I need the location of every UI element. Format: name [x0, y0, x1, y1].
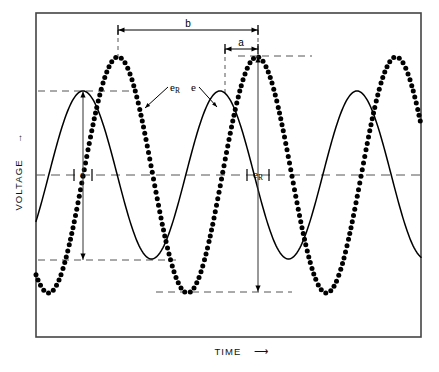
wave-dot	[94, 105, 99, 110]
wave-dot	[230, 119, 235, 124]
wave-dot	[409, 83, 414, 88]
wave-dot	[414, 101, 419, 106]
wave-dot	[222, 163, 227, 168]
wave-dot	[367, 128, 372, 133]
wave-dot	[365, 141, 370, 146]
wave-dot	[332, 284, 337, 289]
wave-dot	[336, 273, 341, 278]
wave-dot	[164, 239, 169, 244]
wave-dot	[387, 59, 392, 64]
wave-dot	[38, 283, 43, 288]
wave-dot	[323, 290, 328, 295]
wave-dot	[302, 237, 307, 242]
wave-dot	[236, 94, 241, 99]
wave-dot	[144, 137, 149, 142]
wave-dot	[286, 154, 291, 159]
wave-dot	[401, 60, 406, 65]
wave-dot	[109, 59, 114, 64]
dimension-label-a: a	[238, 37, 244, 48]
wave-dot	[167, 252, 172, 257]
wave-dot	[149, 163, 154, 168]
wave-dot	[354, 200, 359, 205]
wave-dot	[385, 64, 390, 69]
wave-dot	[134, 94, 139, 99]
wave-dot	[140, 119, 145, 124]
wave-dot	[73, 213, 78, 218]
wave-dot	[278, 116, 283, 121]
wave-dot	[229, 125, 234, 130]
wave-dot	[223, 157, 228, 162]
wave-dot	[151, 177, 156, 182]
wave-dot	[283, 141, 288, 146]
wave-dot	[281, 128, 286, 133]
wave-dot	[170, 264, 175, 269]
wave-dot	[84, 154, 89, 159]
curve-e	[36, 91, 421, 259]
wave-dot	[145, 143, 150, 148]
wave-dot	[347, 231, 352, 236]
wave-dot	[311, 271, 316, 276]
wave-dot	[234, 101, 239, 106]
y-axis-arrow-icon: →	[13, 132, 24, 143]
wave-dot	[277, 110, 282, 115]
wave-dot	[208, 233, 213, 238]
wave-dot	[147, 157, 152, 162]
wave-dot	[87, 141, 92, 146]
wave-dot	[96, 98, 101, 103]
wave-dot	[374, 98, 379, 103]
wave-dot	[360, 167, 365, 172]
wave-dot	[342, 255, 347, 260]
wave-dot	[343, 250, 348, 255]
wave-dot	[86, 147, 91, 152]
wave-dot	[417, 113, 422, 118]
wave-dot	[213, 209, 218, 214]
wave-dot	[46, 291, 51, 296]
wave-dot	[334, 279, 339, 284]
wave-dot	[303, 242, 308, 247]
wave-dot	[313, 277, 318, 282]
wave-dot	[141, 125, 146, 130]
wave-dot	[305, 249, 310, 254]
wave-dot	[156, 203, 161, 208]
wave-dot	[340, 261, 345, 266]
wave-dot	[101, 81, 106, 86]
wave-dot	[197, 275, 202, 280]
wave-dot	[165, 245, 170, 250]
wave-dot	[403, 66, 408, 71]
wave-dot	[351, 213, 356, 218]
wave-dot	[357, 180, 362, 185]
wave-dot	[228, 131, 233, 136]
wave-dot	[362, 154, 367, 159]
wave-dot	[67, 242, 72, 247]
wave-dot	[92, 116, 97, 121]
wave-dot	[119, 56, 124, 61]
waveform-figure: baeeReReTIME⟶VOLTAGE→	[0, 0, 439, 372]
wave-dot	[412, 94, 417, 99]
wave-dot	[215, 196, 220, 201]
text-layer: baeeReReTIME⟶VOLTAGE→	[13, 18, 269, 357]
wave-dot	[271, 87, 276, 92]
wave-dot	[139, 113, 144, 118]
wave-dot	[411, 89, 416, 94]
wave-dot	[287, 161, 292, 166]
wave-dot	[205, 245, 210, 250]
wave-dot	[69, 231, 74, 236]
wave-dot	[372, 105, 377, 110]
wave-dot	[174, 275, 179, 280]
wave-dot	[369, 122, 374, 127]
wave-dot	[406, 71, 411, 76]
wave-dot	[308, 260, 313, 265]
wave-dot	[91, 122, 96, 127]
wave-dot	[391, 55, 396, 60]
plot-frame	[36, 13, 421, 337]
wave-dot	[146, 150, 151, 155]
wave-dot	[131, 83, 136, 88]
wave-dot	[418, 119, 423, 124]
dimension-label-b: b	[185, 18, 191, 29]
wave-dot	[99, 87, 104, 92]
wave-dot	[41, 288, 46, 293]
wave-dot	[209, 228, 214, 233]
wave-dot	[224, 150, 229, 155]
wave-dot	[214, 203, 219, 208]
wave-dot	[36, 277, 41, 282]
